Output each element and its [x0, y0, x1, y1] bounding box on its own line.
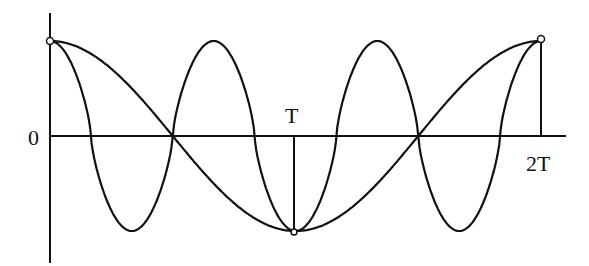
2t-label: 2T [526, 151, 551, 176]
origin-label: 0 [28, 125, 39, 150]
start-point-marker [47, 38, 54, 45]
t-point-marker [291, 229, 297, 235]
2t-point-marker [538, 36, 545, 43]
t-label: T [285, 103, 299, 128]
waveform-diagram: 0 T 2T [0, 0, 589, 266]
